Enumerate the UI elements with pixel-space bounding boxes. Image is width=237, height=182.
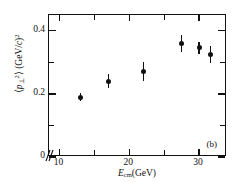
y-tick-minor-right: [220, 62, 225, 63]
x-tick-minor-top: [94, 15, 95, 20]
plot-area: (b): [48, 14, 226, 156]
x-tick-minor: [164, 150, 165, 155]
x-tick-minor-top: [164, 15, 165, 20]
y-tick-minor: [49, 125, 54, 126]
data-marker: [78, 95, 83, 100]
panel-label: (b): [207, 139, 218, 149]
x-tick-major: [129, 149, 130, 155]
y-tick-label: 0.2: [33, 88, 45, 98]
x-axis-title: Ecm(GeV): [48, 168, 226, 180]
x-tick-major: [198, 149, 199, 155]
y-tick-minor-right: [220, 125, 225, 126]
data-marker: [197, 45, 202, 50]
x-tick-minor: [94, 150, 95, 155]
data-marker: [208, 52, 213, 57]
data-marker: [141, 69, 146, 74]
y-tick-minor: [49, 62, 54, 63]
x-tick-major: [59, 149, 60, 155]
y-axis-title-text: ⟨p⊥2⟩ (GeV/c)2: [14, 34, 24, 93]
y-tick-major: [49, 30, 56, 31]
x-tick-major-top: [198, 15, 199, 21]
x-axis-title-text: Ecm(GeV): [118, 168, 156, 178]
y-axis-title: ⟨p⊥2⟩ (GeV/c)2: [11, 9, 27, 119]
x-tick-label: 20: [124, 157, 134, 167]
x-tick-major-top: [59, 15, 60, 21]
y-tick-major-right: [218, 93, 225, 94]
y-tick-major-right: [218, 30, 225, 31]
x-tick-label: 10: [54, 157, 64, 167]
y-tick-label: 0.4: [33, 25, 45, 35]
x-tick-label: 30: [193, 157, 203, 167]
x-tick-major-top: [129, 15, 130, 21]
data-marker: [179, 41, 184, 46]
data-marker: [106, 79, 111, 84]
y-tick-major: [49, 93, 56, 94]
figure-panel-b: 00.20.4 ⟨p⊥2⟩ (GeV/c)2 (b) 102030 Ecm(Ge…: [0, 0, 237, 182]
